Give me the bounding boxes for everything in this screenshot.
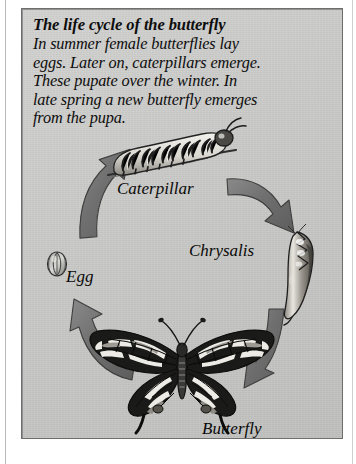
chrysalis-illustration [284,224,313,325]
stage-label-chrysalis: Chrysalis [189,241,254,261]
life-cycle-artwork [22,9,342,438]
page-left-rule [5,0,6,464]
stage-label-butterfly: Butterfly [202,419,261,439]
stage-label-egg: Egg [66,267,93,287]
egg-illustration [48,252,67,276]
diagram-panel: The life cycle of the butterfly In summe… [21,8,343,439]
arrow-caterpillar-to-chrysalis [227,179,294,233]
page-right-rule [352,0,353,464]
caterpillar-illustration [108,118,246,177]
stage-label-caterpillar: Caterpillar [117,179,194,199]
